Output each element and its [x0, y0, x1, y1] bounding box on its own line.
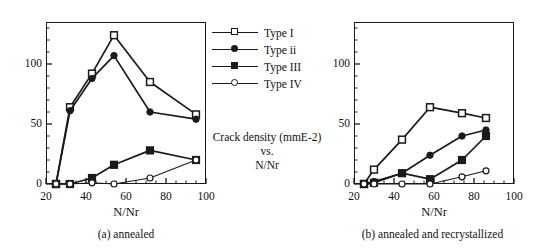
- panel-a-xtick-80: 80: [152, 190, 180, 202]
- panel-b-xaxis-title: N/Nr: [394, 205, 474, 220]
- panel-a-ytick-0: 0: [12, 177, 42, 189]
- panel-a-caption: (a) annealed: [46, 228, 206, 240]
- legend-swatch-filled-square-icon: [212, 60, 258, 74]
- panel-a-xtick-40: 40: [72, 190, 100, 202]
- legend-label-type-4: Type IV: [264, 78, 302, 90]
- panel-b-xtick-80: 80: [460, 190, 488, 202]
- legend-item-type-4[interactable]: Type IV: [212, 75, 324, 92]
- legend-swatch-filled-circle-icon: [212, 43, 258, 57]
- legend-item-type-3[interactable]: Type III: [212, 58, 324, 75]
- center-annotation: Crack density (mmE-2) vs. N/Nr: [196, 130, 338, 172]
- legend-label-type-1: Type I: [264, 27, 294, 39]
- panel-a-xtick-20: 20: [32, 190, 60, 202]
- panel-b-ytick-100: 100: [320, 57, 350, 69]
- legend-item-type-1[interactable]: Type I: [212, 24, 324, 41]
- panel-b-ytick-50: 50: [320, 117, 350, 129]
- legend-label-type-2: Type ii: [264, 44, 296, 56]
- panel-a-xtick-60: 60: [112, 190, 140, 202]
- legend: Type I Type ii Type III Type IV: [212, 24, 324, 92]
- center-annotation-line-1: Crack density (mmE-2): [213, 131, 322, 143]
- panel-b-xtick-40: 40: [380, 190, 408, 202]
- center-annotation-line-3: N/Nr: [196, 158, 338, 172]
- legend-item-type-2[interactable]: Type ii: [212, 41, 324, 58]
- panel-b-xtick-60: 60: [420, 190, 448, 202]
- legend-swatch-open-square-icon: [212, 26, 258, 40]
- panel-a-ytick-100: 100: [12, 57, 42, 69]
- legend-label-type-3: Type III: [264, 61, 301, 73]
- panel-b: 100 50 0 20 40 60 80 100 N/Nr (b) anneal…: [330, 0, 535, 251]
- figure-root: 100 50 0 20 40 60 80 100 N/Nr (a) anneal…: [0, 0, 535, 251]
- panel-a-xtick-100: 100: [192, 190, 220, 202]
- center-annotation-line-2: vs.: [196, 144, 338, 158]
- panel-b-xtick-20: 20: [340, 190, 368, 202]
- panel-a-xaxis-title: N/Nr: [86, 205, 166, 220]
- panel-b-ytick-0: 0: [320, 177, 350, 189]
- panel-b-xtick-100: 100: [500, 190, 528, 202]
- panel-a: 100 50 0 20 40 60 80 100 N/Nr (a) anneal…: [0, 0, 230, 251]
- legend-swatch-open-circle-icon: [212, 77, 258, 91]
- panel-b-caption: (b) annealed and recrystallized: [330, 228, 535, 240]
- panel-a-ytick-50: 50: [12, 117, 42, 129]
